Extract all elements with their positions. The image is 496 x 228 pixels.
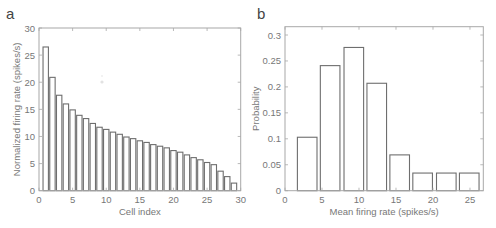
y-tick-label: 0.15	[263, 107, 282, 118]
y-tick-label: 15	[24, 104, 35, 115]
x-tick-label: 5	[319, 194, 324, 205]
bar	[390, 155, 410, 191]
x-tick-label: 0	[282, 194, 287, 205]
x-axis-label-a: Cell index	[119, 206, 161, 217]
y-tick-label: 30	[24, 23, 35, 34]
bar	[231, 183, 236, 191]
bar	[184, 155, 189, 191]
y-tick-label: 5	[30, 158, 35, 169]
y-tick-label: 0	[276, 185, 281, 196]
x-tick-label: 10	[101, 194, 112, 205]
bar	[164, 148, 169, 191]
y-tick-label: 10	[24, 131, 35, 142]
bar	[50, 77, 55, 190]
x-tick-label: 0	[36, 194, 41, 205]
artifact-dot	[100, 80, 103, 83]
y-tick-label: 0.3	[268, 30, 281, 41]
bar	[204, 162, 209, 190]
bar	[157, 146, 162, 190]
panel-letter-b: b	[257, 5, 265, 22]
bar	[104, 129, 109, 190]
figure: a b 051015202530051015202530 Cell index …	[0, 0, 496, 228]
y-tick-label: 0.25	[263, 55, 282, 66]
chart-panel-b: 051015202500.050.10.150.20.250.3 Mean fi…	[250, 27, 483, 217]
bar	[43, 47, 48, 191]
panel-letter-a: a	[6, 5, 15, 22]
y-tick-label: 25	[24, 50, 35, 61]
bar	[110, 132, 115, 191]
bar	[77, 115, 82, 190]
bar	[171, 151, 176, 191]
x-tick-label: 15	[391, 194, 402, 205]
artifact-dot	[101, 75, 103, 77]
bar	[320, 66, 340, 191]
bar	[225, 177, 230, 191]
x-tick-label: 25	[202, 194, 213, 205]
bar	[97, 127, 102, 190]
x-tick-label: 5	[70, 194, 75, 205]
y-tick-label: 0.1	[268, 133, 281, 144]
x-tick-label: 20	[428, 194, 439, 205]
bar	[297, 137, 317, 190]
chart-panel-a: 051015202530051015202530 Cell index Norm…	[11, 23, 246, 218]
x-tick-label: 15	[135, 194, 146, 205]
bar	[459, 173, 479, 191]
x-tick-label: 30	[235, 194, 246, 205]
bar	[63, 104, 68, 191]
y-axis-label-a: Normalized firing rate (spikes/s)	[11, 43, 22, 177]
x-tick-label: 25	[465, 194, 476, 205]
bar	[144, 142, 149, 190]
bar	[367, 83, 387, 190]
bar	[83, 119, 88, 191]
y-tick-label: 0.05	[263, 159, 282, 170]
bar	[124, 137, 129, 191]
bar	[56, 95, 61, 190]
bar	[137, 141, 142, 191]
y-tick-label: 0	[30, 185, 35, 196]
bar	[70, 110, 75, 191]
bars-a	[43, 47, 237, 191]
bar	[436, 173, 456, 191]
bar	[130, 139, 135, 191]
x-tick-label: 20	[168, 194, 179, 205]
bar	[191, 158, 196, 191]
x-axis-label-b: Mean firing rate (spikes/s)	[330, 206, 439, 217]
bar	[90, 123, 95, 190]
bar	[211, 165, 216, 191]
bar	[413, 173, 433, 191]
bars-b	[297, 47, 479, 190]
x-tick-label: 10	[354, 194, 365, 205]
bar	[344, 47, 364, 190]
bar	[198, 160, 203, 191]
bar	[178, 152, 183, 191]
y-tick-label: 20	[24, 77, 35, 88]
y-tick-label: 0.2	[268, 81, 281, 92]
bar	[117, 134, 122, 190]
y-axis-label-b: Probability	[250, 86, 261, 131]
bar	[151, 145, 156, 191]
bar	[218, 171, 223, 191]
